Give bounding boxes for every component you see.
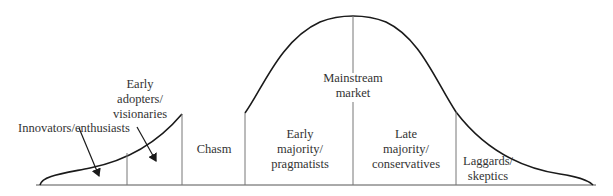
label-early-majority: Early majority/ pragmatists [255,127,345,172]
label-mainstream: Mainstream market [318,71,388,101]
label-laggards: Laggards/ skeptics [458,154,518,184]
arrow-early-adopters-icon [137,127,156,161]
adoption-curve-diagram: Innovators/enthusiasts Early adopters/ v… [0,0,613,196]
label-late-majority: Late majority/ conservatives [358,127,454,172]
label-chasm: Chasm [186,142,242,157]
label-innovators: Innovators/enthusiasts [18,121,130,136]
label-early-adopters: Early adopters/ visionaries [100,77,180,122]
